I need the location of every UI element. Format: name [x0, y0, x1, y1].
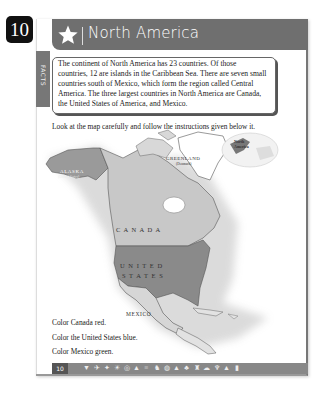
header-divider	[82, 27, 83, 45]
facts-tab: FACTS	[36, 51, 50, 107]
map-label-alaska: ALASKA	[60, 169, 84, 174]
task-color-mexico: Color Mexico green.	[52, 347, 113, 356]
sun-icon: ☀	[112, 363, 121, 374]
page-title: North America	[88, 24, 199, 42]
footer-icon-strip: ▼ ✈ ✦ ☀ ◎ ▲ ≡ ♞ ◍ ▲ ♣ ♜ ☁ ♆ ▲ ▮	[82, 363, 241, 374]
task-color-usa: Color the United States blue.	[52, 333, 138, 342]
facts-tab-label: FACTS	[40, 56, 47, 96]
layers-icon: ≡	[142, 363, 151, 374]
map-label-greenland-sub: (Denmark)	[176, 162, 191, 166]
map-label-mexico: MEXICO	[126, 311, 151, 317]
plane-icon: ✈	[92, 363, 101, 374]
cactus-icon: ♆	[212, 363, 221, 374]
mountains-icon: ▲	[132, 363, 141, 374]
footer-page-number: 10	[52, 363, 68, 374]
map-label-alaska-sub: (United States)	[58, 175, 79, 179]
compass-icon: ◎	[122, 363, 131, 374]
map-label-inset: North America	[234, 139, 258, 149]
map-label-canada: C A N A D A	[116, 226, 161, 233]
map-label-greenland: GREENLAND	[166, 156, 200, 161]
cloud-icon: ☁	[202, 363, 211, 374]
globe-icon: ◍	[162, 363, 171, 374]
map-label-states: S T A T E S	[122, 272, 164, 279]
star-icon	[57, 24, 79, 46]
funnel-icon: ▼	[82, 363, 91, 374]
page-number-badge: 10	[6, 16, 33, 43]
scroll-icon: ▮	[232, 363, 241, 374]
tower-icon: ♜	[192, 363, 201, 374]
hill-icon: ▲	[222, 363, 231, 374]
volcano-icon: ▲	[172, 363, 181, 374]
animal-icon: ♞	[152, 363, 161, 374]
hudson-bay	[163, 197, 185, 213]
facts-text: The continent of North America has 23 co…	[58, 59, 268, 109]
map-label-united: U N I T E D	[120, 262, 163, 269]
task-color-canada: Color Canada red.	[52, 318, 106, 327]
tree-icon: ♣	[182, 363, 191, 374]
sparkle-icon: ✦	[102, 363, 111, 374]
